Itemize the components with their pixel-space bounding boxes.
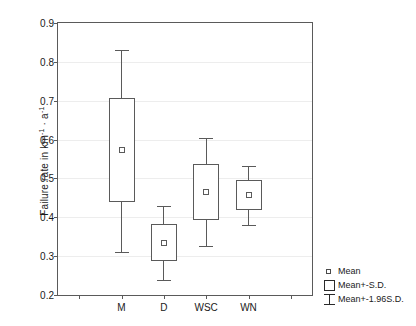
whisker-cap-lower [199,246,213,247]
mean-marker [161,240,167,246]
x-axis-tick-label-wn: WN [240,302,257,313]
x-axis-tick [291,295,292,299]
box-plot-series-layer [58,23,312,295]
y-axis-tick [54,23,58,24]
legend-label-sd: Mean+-S.D. [338,281,386,290]
x-axis-tick [249,295,250,299]
y-axis-tick [54,62,58,63]
whisker-cap-lower [157,280,171,281]
y-axis-tick-label: 0.3 [40,251,54,262]
whisker-lower [206,220,207,246]
sd-box-icon [322,278,338,292]
whisker-cap-upper [242,166,256,167]
y-axis-tick-label: 0.9 [40,18,54,29]
legend-item-sd: Mean+-S.D. [322,278,404,292]
plot-area: 0.20.30.40.50.60.70.80.9MDWSCWN [57,22,313,296]
x-axis-tick [206,295,207,299]
y-axis-tick [54,256,58,257]
y-axis-tick-label: 0.5 [40,173,54,184]
mean-marker-icon [322,264,338,278]
whisker-upper [163,206,164,224]
y-axis-tick [54,101,58,102]
legend: Mean Mean+-S.D. Mean+-1.96S.D. [322,264,404,306]
whisker-upper [206,138,207,165]
y-axis-tick-label: 0.4 [40,212,54,223]
y-axis-tick [54,217,58,218]
x-axis-tick-label-wsc: WSC [194,302,217,313]
whisker-lower [248,210,249,224]
mean-marker [119,147,125,153]
whisker-upper [248,166,249,180]
ci-whisker-icon [322,292,338,306]
y-axis-tick-label: 0.7 [40,95,54,106]
x-axis-tick-label-d: D [160,302,167,313]
y-axis-tick [54,295,58,296]
x-axis-tick [122,295,123,299]
mean-marker [203,189,209,195]
x-axis-tick [164,295,165,299]
legend-item-mean: Mean [322,264,404,278]
whisker-cap-upper [157,206,171,207]
y-axis-tick-label: 0.2 [40,290,54,301]
box-plot-figure: Failure rate in km-1 · a-1 0.20.30.40.50… [0,0,416,326]
whisker-lower [163,261,164,280]
y-axis-tick [54,178,58,179]
y-axis-tick-label: 0.6 [40,134,54,145]
x-axis-tick [79,295,80,299]
whisker-cap-upper [115,50,129,51]
whisker-cap-lower [115,252,129,253]
whisker-cap-lower [242,225,256,226]
x-axis-tick-label-m: M [117,302,125,313]
y-axis-tick [54,140,58,141]
y-axis-title-exponent-2: -1 [38,106,45,113]
legend-label-mean: Mean [338,267,361,276]
mean-marker [246,192,252,198]
legend-item-ci: Mean+-1.96S.D. [322,292,404,306]
y-axis-title-middle: · a [39,113,50,128]
y-axis-tick-label: 0.8 [40,56,54,67]
y-axis-title: Failure rate in km-1 · a-1 [38,51,50,271]
whisker-cap-upper [199,138,213,139]
whisker-upper [121,50,122,98]
whisker-lower [121,202,122,252]
legend-label-ci: Mean+-1.96S.D. [338,295,404,304]
